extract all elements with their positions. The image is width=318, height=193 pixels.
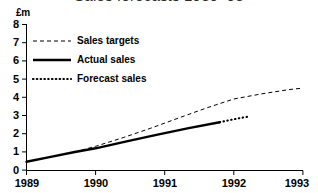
series-line-sales-targets [27,88,303,162]
x-tick-label-1993: 1993 [275,178,318,189]
y-tick-label-5: 5 [3,74,19,85]
y-tick-label-2: 2 [3,128,19,139]
x-tick-label-1990: 1990 [74,178,118,189]
y-tick-label-3: 3 [3,110,19,121]
chart-plot-area [0,0,318,193]
x-tick-label-1992: 1992 [212,178,256,189]
series-line-forecast-sales [220,117,248,122]
y-tick-label-4: 4 [3,92,19,103]
y-tick-label-0: 0 [3,165,19,176]
legend-label-forecast-sales: Forecast sales [77,74,147,84]
y-tick-label-8: 8 [3,19,19,30]
x-tick-label-1989: 1989 [5,178,49,189]
y-tick-label-6: 6 [3,55,19,66]
y-axis-ticks [22,25,27,171]
legend-label-actual-sales: Actual sales [77,55,135,65]
series-line-actual-sales [27,122,220,162]
y-tick-label-7: 7 [3,37,19,48]
legend-label-sales-targets: Sales targets [77,36,139,46]
y-tick-label-1: 1 [3,146,19,157]
x-tick-label-1991: 1991 [143,178,187,189]
x-axis-ticks [27,171,303,176]
chart-screenshot: Sales forecasts 1989–93 £m [0,0,318,193]
